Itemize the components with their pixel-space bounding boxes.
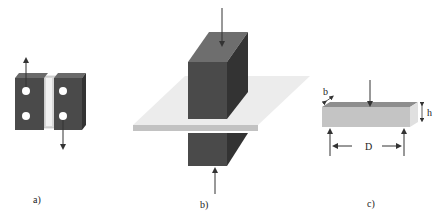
left-block-front: [15, 78, 44, 130]
right-block-top: [54, 73, 86, 78]
left-block-top: [15, 73, 48, 78]
hole-icon: [59, 112, 67, 120]
upper-block-front: [188, 62, 227, 119]
lower-block-front: [188, 133, 227, 166]
beam-front: [322, 107, 410, 127]
hole-icon: [22, 87, 30, 95]
lower-block-side: [227, 133, 248, 166]
strip-highlight: [46, 78, 52, 126]
width-dim-icon: [325, 97, 332, 102]
right-block-side: [82, 73, 86, 130]
caption-a: a): [33, 194, 41, 206]
hole-icon: [59, 87, 67, 95]
height-label: h: [427, 107, 432, 118]
hole-icon: [22, 112, 30, 120]
figure-canvas: a) b) D b h c): [0, 0, 445, 218]
caption-b: b): [200, 199, 208, 211]
panel-a: [15, 60, 86, 147]
caption-c: c): [367, 198, 375, 210]
panel-b: [133, 8, 310, 194]
width-label: b: [323, 86, 328, 97]
right-block-front: [54, 78, 82, 130]
plate-edge: [133, 125, 258, 131]
span-label: D: [365, 141, 372, 152]
